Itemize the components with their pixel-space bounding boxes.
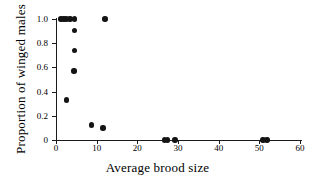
data-point — [72, 48, 77, 53]
scatter-plot-figure: 0102030405060 00.20.40.60.81.0 Average b… — [0, 0, 315, 183]
x-axis-title: Average brood size — [0, 160, 315, 176]
data-point — [100, 125, 105, 130]
y-tick-mark — [52, 140, 56, 141]
data-point — [102, 16, 107, 21]
x-tick-label: 10 — [82, 143, 112, 153]
x-tick-label: 50 — [244, 143, 274, 153]
x-tick-label: 60 — [285, 143, 315, 153]
x-tick-label: 20 — [122, 143, 152, 153]
x-tick-label: 40 — [204, 143, 234, 153]
data-point — [71, 68, 76, 73]
data-point — [172, 137, 177, 142]
x-tick-label: 30 — [163, 143, 193, 153]
data-point — [264, 137, 269, 142]
y-axis-title: Proportion of winged males — [13, 0, 29, 159]
data-point — [165, 137, 170, 142]
data-point — [64, 97, 69, 102]
